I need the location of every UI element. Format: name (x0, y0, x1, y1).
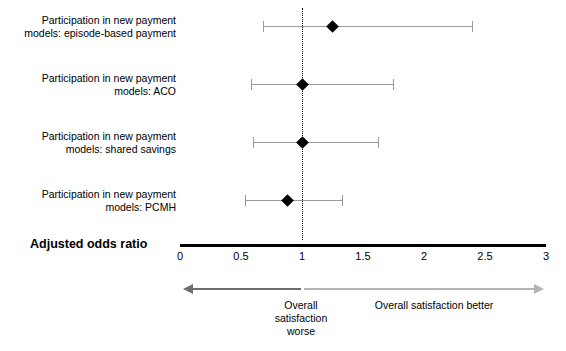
category-label-aco: Participation in new payment models: ACO (10, 72, 176, 98)
x-tick-1-5: 1.5 (348, 250, 378, 262)
ci-cap-right-pcmh (342, 195, 343, 206)
confidence-interval-episode-based-payment (263, 26, 473, 27)
ci-cap-left-pcmh (245, 195, 246, 206)
x-tick-0-5: 0.5 (226, 250, 256, 262)
x-axis-title: Adjusted odds ratio (30, 237, 147, 251)
x-tick-0: 0 (165, 250, 195, 262)
arrow-shaft-right (304, 288, 534, 290)
worse-direction-arrow (183, 283, 301, 295)
category-label-episode-based-payment: Participation in new payment models: epi… (10, 14, 176, 40)
ci-cap-left-shared-savings (253, 137, 254, 148)
arrow-head-right-icon (534, 284, 544, 294)
x-tick-2: 2 (409, 250, 439, 262)
x-tick-3: 3 (531, 250, 561, 262)
point-estimate-shared-savings (296, 136, 309, 149)
confidence-interval-shared-savings (253, 142, 379, 143)
ci-cap-right-shared-savings (378, 137, 379, 148)
better-direction-arrow (304, 283, 544, 295)
arrow-shaft-left (192, 288, 301, 290)
forest-plot: Participation in new payment models: epi… (0, 0, 566, 351)
ci-cap-left-aco (251, 79, 252, 90)
x-axis-line (180, 244, 546, 247)
point-estimate-aco (296, 78, 309, 91)
ci-cap-right-aco (393, 79, 394, 90)
x-tick-2-5: 2.5 (470, 250, 500, 262)
x-tick-1: 1 (287, 250, 317, 262)
category-label-column: Participation in new payment models: epi… (4, 0, 176, 240)
point-estimate-episode-based-payment (326, 20, 339, 33)
reference-line-or-1 (302, 8, 303, 240)
category-label-shared-savings: Participation in new payment models: sha… (10, 130, 176, 156)
annotation-satisfaction-better: Overall satisfaction better (344, 299, 524, 312)
ci-cap-right-episode-based-payment (472, 21, 473, 32)
plot-area (180, 0, 552, 240)
confidence-interval-aco (251, 84, 394, 85)
ci-cap-left-episode-based-payment (263, 21, 264, 32)
annotation-satisfaction-worse: Overall satisfaction worse (248, 299, 354, 338)
point-estimate-pcmh (281, 194, 294, 207)
category-label-pcmh: Participation in new payment models: PCM… (10, 188, 176, 214)
